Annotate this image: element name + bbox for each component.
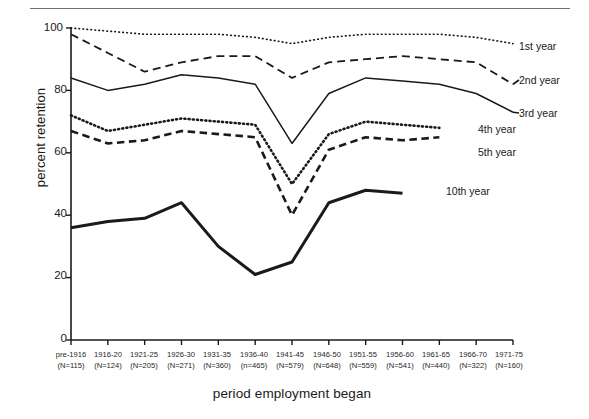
plot-canvas	[0, 0, 589, 419]
series-line-1st-year	[71, 28, 513, 44]
series-line-2nd-year	[71, 34, 513, 84]
leader-2nd-year	[513, 80, 519, 84]
series-line-10th-year	[71, 190, 403, 274]
retention-line-chart-figure: percent retention period employment bega…	[0, 0, 589, 419]
series-line-5th-year	[71, 131, 439, 215]
series-line-3rd-year	[71, 75, 513, 144]
series-line-4th-year	[71, 115, 439, 184]
leader-3rd-year	[513, 112, 519, 113]
